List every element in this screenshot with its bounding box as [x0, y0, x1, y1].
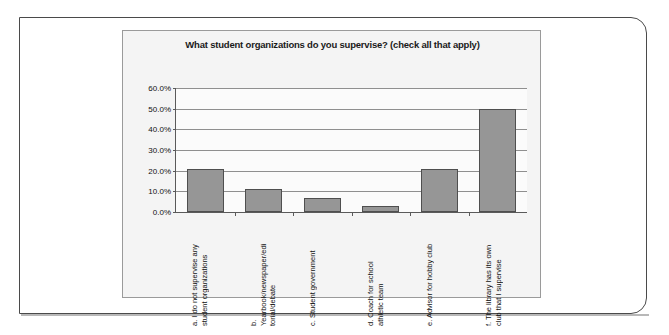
- y-tick-label: 10.0%: [148, 187, 171, 196]
- y-tick-label: 60.0%: [148, 84, 171, 93]
- chart-title: What student organizations do you superv…: [123, 39, 542, 50]
- bar-slot: [235, 88, 294, 212]
- bar-slot: [469, 88, 528, 212]
- x-tick-mark: [410, 212, 411, 216]
- x-tick-mark: [352, 212, 353, 216]
- bar: [187, 169, 224, 212]
- y-tick-label: 0.0%: [153, 208, 171, 217]
- y-tick-label: 30.0%: [148, 146, 171, 155]
- bar-slot: [293, 88, 352, 212]
- category-label: a. I do not supervise any student organi…: [190, 221, 218, 326]
- x-tick-mark: [469, 212, 470, 216]
- category-label: c. Student government: [308, 221, 336, 326]
- category-label: d. Coach for school athletic team: [366, 221, 394, 326]
- bar: [245, 189, 282, 212]
- y-tick-label: 50.0%: [148, 104, 171, 113]
- y-tick-label: 40.0%: [148, 125, 171, 134]
- plot-area: 60.0%50.0%40.0%30.0%20.0%10.0%0.0%: [175, 88, 527, 213]
- x-tick-mark: [235, 212, 236, 216]
- bar-series: [176, 88, 527, 212]
- bar: [479, 109, 516, 212]
- bar-slot: [352, 88, 411, 212]
- y-tick-mark: [173, 212, 176, 213]
- chart-container: What student organizations do you superv…: [122, 30, 541, 298]
- bar-slot: [176, 88, 235, 212]
- bar-slot: [410, 88, 469, 212]
- category-label: e. Advisor for hobby club: [425, 221, 453, 326]
- category-label: f. The library has its own club that I s…: [484, 221, 512, 326]
- y-tick-label: 20.0%: [148, 166, 171, 175]
- x-tick-mark: [293, 212, 294, 216]
- bar: [362, 206, 399, 212]
- bar: [421, 169, 458, 212]
- category-label: b. Yearbook/newspaper/edi torial/debate: [249, 221, 277, 326]
- bar: [304, 198, 341, 212]
